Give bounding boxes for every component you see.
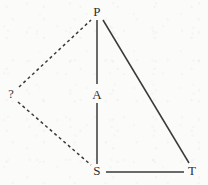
- edge-unknown-s: [18, 102, 91, 165]
- diagram-canvas: P ? A S T: [0, 0, 208, 185]
- node-label-t: T: [188, 164, 196, 177]
- edge-unknown-p: [19, 20, 91, 87]
- node-label-s: S: [93, 164, 100, 177]
- edge-p-t: [103, 20, 189, 163]
- edge-layer: [0, 0, 208, 185]
- node-label-a: A: [92, 88, 102, 101]
- node-label-p: P: [93, 5, 100, 18]
- node-label-unknown: ?: [8, 88, 14, 101]
